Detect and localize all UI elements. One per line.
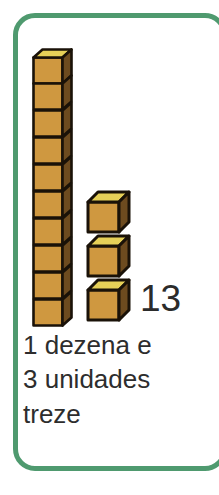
ten-rod-svg (31, 48, 77, 330)
caption-line-3: treze (23, 397, 213, 431)
illustration-card: 13 1 dezena e 3 unidades treze (0, 0, 219, 495)
unit-cube-1 (88, 192, 129, 232)
ten-rod-group (31, 48, 77, 330)
loose-unit-cubes-group (86, 190, 138, 322)
unit-cube-2 (88, 236, 129, 276)
numeral-value: 13 (140, 280, 181, 317)
rod-cube-1 (34, 50, 72, 84)
unit-cubes-svg (86, 190, 138, 322)
caption-line-2: 3 unidades (23, 362, 213, 396)
base-ten-blocks-illustration (0, 0, 219, 340)
unit-cube-3 (88, 280, 129, 320)
caption-line-1: 1 dezena e (23, 328, 213, 362)
caption-block: 1 dezena e 3 unidades treze (23, 328, 213, 431)
